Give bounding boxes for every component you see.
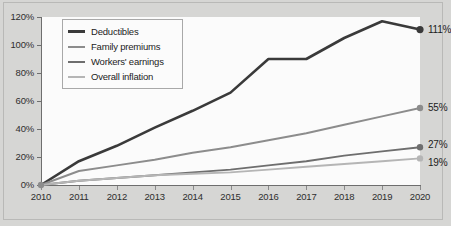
y-tick <box>37 45 41 46</box>
legend-item-overall-inflation: Overall inflation <box>68 69 177 84</box>
legend-swatch-overall-inflation <box>68 76 85 78</box>
y-tick <box>37 73 41 74</box>
y-tick-label: 80% <box>0 67 34 78</box>
y-tick <box>37 101 41 102</box>
legend-swatch-family-premiums <box>68 46 85 48</box>
legend-label-overall-inflation: Overall inflation <box>91 71 153 82</box>
x-tick-label: 2016 <box>258 191 278 202</box>
y-tick <box>37 157 41 158</box>
y-tick-label: 120% <box>0 11 34 22</box>
x-tick <box>193 186 194 190</box>
y-tick-label: 60% <box>0 95 34 106</box>
y-tick-label: 20% <box>0 151 34 162</box>
legend-item-deductibles: Deductibles <box>68 24 177 39</box>
legend-swatch-workers-earnings <box>68 61 85 63</box>
x-tick-label: 2014 <box>182 191 202 202</box>
legend-swatch-deductibles <box>68 30 85 33</box>
x-tick <box>306 186 307 190</box>
x-tick-label: 2019 <box>372 191 392 202</box>
x-tick-label: 2015 <box>220 191 240 202</box>
x-tick-label: 2020 <box>410 191 430 202</box>
legend-label-deductibles: Deductibles <box>91 26 138 37</box>
x-tick-label: 2011 <box>69 191 89 202</box>
x-tick <box>420 186 421 190</box>
x-tick <box>231 186 232 190</box>
x-tick <box>382 186 383 190</box>
y-tick <box>37 17 41 18</box>
y-tick-label: 40% <box>0 123 34 134</box>
x-tick-label: 2012 <box>107 191 127 202</box>
legend-item-family-premiums: Family premiums <box>68 39 177 54</box>
x-tick <box>79 186 80 190</box>
y-axis-line <box>41 17 42 186</box>
chart-legend: Deductibles Family premiums Workers' ear… <box>62 19 183 89</box>
endpoint-label-family-premiums: 55% <box>428 102 447 113</box>
x-tick-label: 2010 <box>31 191 51 202</box>
legend-label-workers-earnings: Workers' earnings <box>91 56 164 67</box>
legend-label-family-premiums: Family premiums <box>91 41 160 52</box>
x-tick-label: 2018 <box>334 191 354 202</box>
legend-item-workers-earnings: Workers' earnings <box>68 54 177 69</box>
x-tick <box>268 186 269 190</box>
endpoint-label-deductibles: 111% <box>428 24 451 35</box>
x-tick <box>155 186 156 190</box>
x-tick-label: 2017 <box>296 191 316 202</box>
y-tick <box>37 129 41 130</box>
x-tick <box>117 186 118 190</box>
endpoint-label-workers-earnings: 27% <box>428 139 447 150</box>
y-tick-label: 0% <box>0 179 34 190</box>
endpoint-label-overall-inflation: 19% <box>428 157 447 168</box>
y-tick-label: 100% <box>0 39 34 50</box>
x-tick <box>41 186 42 190</box>
x-tick <box>344 186 345 190</box>
x-tick-label: 2013 <box>145 191 165 202</box>
